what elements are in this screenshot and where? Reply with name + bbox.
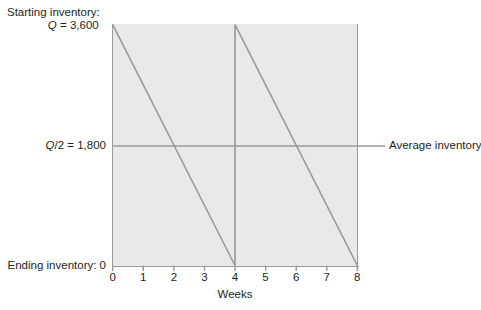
starting-inventory-variable: Q xyxy=(48,19,57,31)
x-axis-title: Weeks xyxy=(112,288,358,301)
x-tick-label: 7 xyxy=(317,271,337,284)
x-tick-label: 6 xyxy=(286,271,306,284)
starting-inventory-label-line1: Starting inventory: xyxy=(7,6,100,18)
x-tick-label: 1 xyxy=(133,271,153,284)
x-tick-label: 8 xyxy=(347,271,367,284)
x-tick-label: 2 xyxy=(164,271,184,284)
average-inventory-callout-label: Average inventory xyxy=(389,139,481,152)
x-tick-label: 0 xyxy=(103,271,123,284)
x-tick-label: 5 xyxy=(256,271,276,284)
x-tick-label: 4 xyxy=(225,271,245,284)
starting-inventory-label-line2: Q = 3,600 xyxy=(7,19,100,32)
average-inventory-value-label: Q/2 = 1,800 xyxy=(0,139,106,152)
x-tick-label: 3 xyxy=(194,271,214,284)
inventory-depletion-line-cycle-1 xyxy=(113,25,235,266)
inventory-depletion-line-cycle-2 xyxy=(235,25,357,266)
average-inventory-value-text: /2 = 1,800 xyxy=(55,139,106,151)
starting-inventory-value: = 3,600 xyxy=(57,19,99,31)
ending-inventory-label: Ending inventory: 0 xyxy=(0,259,106,272)
inventory-sawtooth-figure: Starting inventory: Q = 3,600 Q/2 = 1,80… xyxy=(0,0,481,310)
q-over-2-variable: Q xyxy=(46,139,55,151)
starting-inventory-label: Starting inventory: Q = 3,600 xyxy=(7,6,100,32)
